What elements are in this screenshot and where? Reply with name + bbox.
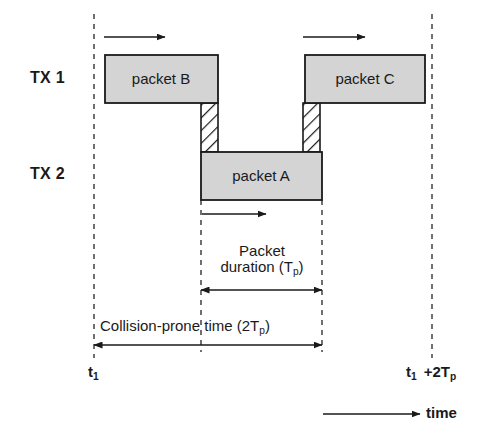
packet-label-packet-a: packet A bbox=[232, 168, 290, 184]
hatched-regions bbox=[201, 103, 320, 152]
collision-prone-prefix: Collision-prone time (2T bbox=[100, 317, 259, 334]
packet-duration-suffix: ) bbox=[299, 258, 304, 275]
row-label-tx2: TX 2 bbox=[30, 166, 65, 183]
tick-label-t1-subscript: 1 bbox=[93, 371, 99, 382]
timing-diagram-figure: TX 1 TX 2 packet B packet C packet A Pac… bbox=[0, 0, 502, 439]
hatched-region-collision-window-right bbox=[303, 103, 320, 152]
tick-label-t1: t1 bbox=[88, 364, 99, 383]
packet-label-packet-b: packet B bbox=[132, 71, 190, 87]
packet-duration-annotation: Packet duration (Tp) bbox=[220, 243, 303, 277]
row-label-tx1: TX 1 bbox=[30, 70, 65, 87]
packet-duration-line1: Packet bbox=[220, 243, 303, 259]
time-axis-label: time bbox=[426, 405, 457, 421]
tick-label-t1-plus-2tp: t1+2Tp bbox=[406, 364, 456, 383]
tick-label-plus-subscript: p bbox=[450, 371, 456, 382]
hatched-region-collision-window-left bbox=[201, 103, 218, 152]
tick-label-end-subscript: 1 bbox=[411, 371, 417, 382]
tick-label-plus-prefix: +2T bbox=[424, 363, 450, 380]
packet-duration-prefix: duration (T bbox=[220, 258, 293, 275]
collision-prone-suffix: ) bbox=[265, 317, 270, 334]
packet-label-packet-c: packet C bbox=[335, 71, 394, 87]
packet-duration-line2: duration (Tp) bbox=[220, 259, 303, 278]
collision-prone-time-annotation: Collision-prone time (2Tp) bbox=[100, 318, 270, 337]
